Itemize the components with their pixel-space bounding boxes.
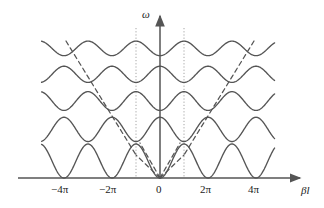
band-curve-4 (42, 66, 275, 82)
light-line-origin-left-steep (140, 143, 160, 178)
light-line-left-outer (66, 41, 136, 155)
x-tick-label-zero: 0 (156, 183, 162, 195)
beta-l-axis-label: βl (301, 184, 310, 196)
light-line-origin-right-steep (160, 143, 180, 178)
plot-canvas (0, 0, 324, 208)
band-curve-2 (42, 117, 275, 141)
x-tick-label-4pi: 4π (248, 183, 259, 195)
x-tick-label-2pi: 2π (200, 183, 211, 195)
axes (18, 16, 300, 178)
dispersion-diagram-figure: ω βl −4π −2π 0 2π 4π (0, 0, 324, 208)
light-line-origin-left (136, 155, 160, 178)
band-curve-1 (42, 144, 275, 178)
x-tick-label-minus-4pi: −4π (51, 183, 68, 195)
x-tick-label-minus-2pi: −2π (99, 183, 116, 195)
band-curves (42, 41, 275, 178)
band-curve-5 (42, 41, 275, 56)
band-curve-3 (42, 92, 275, 111)
omega-axis-label: ω (142, 8, 150, 20)
light-line-origin-right (160, 155, 184, 178)
light-line-right-outer (184, 41, 254, 155)
